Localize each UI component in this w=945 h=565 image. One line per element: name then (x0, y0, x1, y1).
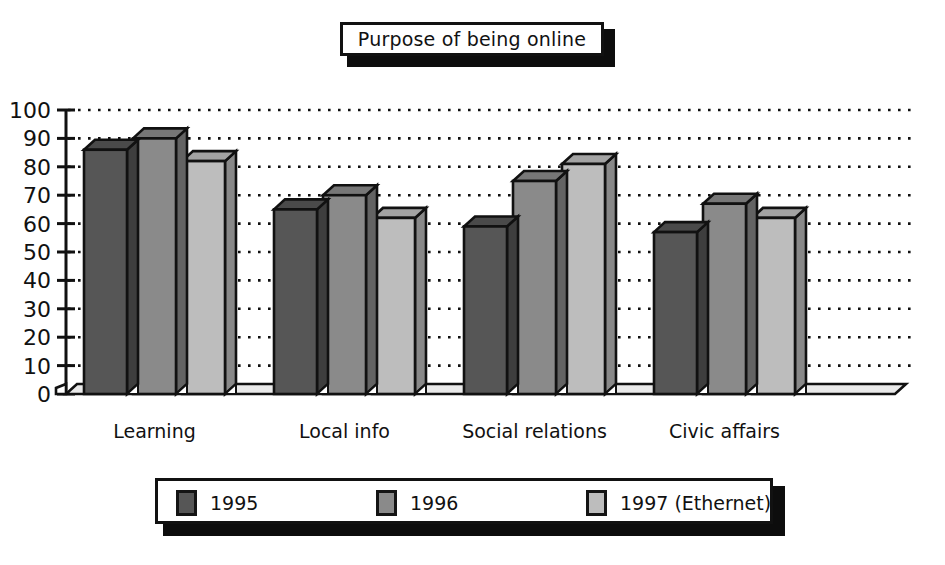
chart-legend: 1995 1996 1997 (Ethernet) (155, 478, 785, 540)
bars-group (84, 128, 806, 394)
category-label: Learning (113, 420, 196, 442)
y-tick-label: 80 (23, 155, 51, 180)
legend-item: 1997 (Ethernet) (586, 489, 771, 517)
legend-label: 1997 (Ethernet) (620, 492, 771, 514)
category-label: Civic affairs (669, 420, 780, 442)
category-label: Local info (299, 420, 390, 442)
legend-swatch-1995 (176, 490, 197, 516)
chart-title-plaque: Purpose of being online (340, 22, 610, 62)
bar-3d (372, 208, 426, 394)
bar-3d (464, 216, 518, 394)
y-tick-label: 40 (23, 268, 51, 293)
y-tick-label: 10 (23, 354, 51, 379)
bar-3d (133, 128, 187, 394)
bar-3d (323, 185, 377, 394)
y-tick-labels: 1009080706050403020100 (9, 98, 51, 407)
y-tick-label: 50 (23, 240, 51, 265)
legend-swatch-1996 (376, 490, 397, 516)
legend-item: 1996 (376, 489, 458, 517)
y-tick-label: 90 (23, 126, 51, 151)
y-tick-label: 0 (37, 382, 51, 407)
bar-3d (654, 222, 708, 394)
legend-label: 1996 (410, 492, 458, 514)
legend-box: 1995 1996 1997 (Ethernet) (155, 478, 773, 524)
bar-3d (274, 199, 328, 394)
y-tick-label: 30 (23, 297, 51, 322)
category-labels: Civic affairsSocial relationsLocal infoL… (113, 420, 780, 442)
legend-item: 1995 (176, 489, 258, 517)
bar-3d (703, 194, 757, 394)
bar-3d (84, 140, 138, 394)
chart-screenshot: Purpose of being online 1009080706050403… (0, 0, 945, 565)
y-tick-label: 70 (23, 183, 51, 208)
page-title: Purpose of being online (358, 28, 586, 50)
bar-3d (182, 151, 236, 394)
legend-label: 1995 (210, 492, 258, 514)
bar-3d (513, 171, 567, 394)
y-tick-label: 60 (23, 212, 51, 237)
y-tick-label: 20 (23, 325, 51, 350)
legend-swatch-1997 (586, 490, 607, 516)
y-tick-label: 100 (9, 98, 51, 123)
bar-chart-3d: 1009080706050403020100 Civic affairsSoci… (0, 88, 945, 448)
title-box: Purpose of being online (340, 22, 604, 56)
y-axis (57, 109, 75, 395)
bar-3d (752, 208, 806, 394)
bar-3d (562, 154, 616, 394)
category-label: Social relations (462, 420, 607, 442)
